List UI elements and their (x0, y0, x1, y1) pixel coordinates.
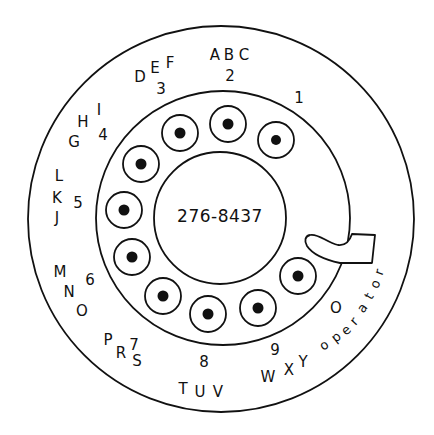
finger-hole-4[interactable] (123, 146, 159, 182)
finger-hole-0[interactable] (280, 258, 316, 294)
digit-label-2: 2 (225, 67, 235, 85)
finger-hole-9[interactable] (240, 290, 276, 326)
operator-letter: t (361, 290, 377, 302)
digit-label-8: 8 (199, 353, 209, 371)
hole-dot-icon (175, 128, 186, 139)
digit-label-0: O (330, 299, 342, 317)
letter-f: F (166, 54, 175, 72)
letter-y: Y (297, 353, 308, 371)
letter-s: S (132, 352, 142, 370)
operator-letter: r (347, 314, 362, 328)
letter-c: C (239, 46, 249, 64)
digit-label-5: 5 (73, 194, 83, 212)
letter-o: O (76, 302, 88, 320)
label-group-2: A B C 2 (210, 46, 249, 85)
operator-letter: e (338, 322, 354, 339)
finger-hole-5[interactable] (106, 192, 142, 228)
letter-u: U (195, 383, 206, 401)
letter-a: A (210, 46, 221, 64)
letter-d: D (134, 68, 146, 86)
letter-t: T (177, 380, 188, 398)
digit-label-9: 9 (270, 341, 280, 359)
letter-n: N (63, 283, 74, 301)
hole-dot-icon (136, 159, 147, 170)
letter-l: L (55, 167, 64, 185)
operator-letter: o (367, 277, 384, 291)
letter-v: V (213, 383, 224, 401)
letter-r: R (116, 344, 126, 362)
letter-g: G (68, 133, 80, 151)
hole-dot-icon (293, 271, 304, 282)
hole-dot-icon (271, 135, 281, 145)
digit-label-3: 3 (156, 80, 166, 98)
label-group-8: 8 T U V (177, 353, 223, 401)
letter-j: J (54, 209, 59, 227)
finger-hole-2[interactable] (210, 106, 246, 142)
hole-dot-icon (127, 252, 138, 263)
finger-stop-icon (305, 234, 375, 263)
label-group-5: J K L 5 (52, 167, 83, 227)
hole-dot-icon (223, 119, 234, 130)
letter-e: E (150, 59, 159, 77)
letter-w: W (261, 368, 276, 386)
digit-label-1: 1 (294, 89, 304, 107)
digit-label-4: 4 (98, 126, 108, 144)
label-group-4: G H I 4 (68, 101, 108, 151)
finger-hole-7[interactable] (145, 278, 181, 314)
hole-dot-icon (203, 309, 214, 320)
phone-number-label: 276-8437 (177, 206, 263, 226)
finger-hole-3[interactable] (162, 115, 198, 151)
finger-hole-1[interactable] (258, 122, 294, 158)
finger-hole-6[interactable] (114, 239, 150, 275)
letter-p: P (103, 331, 112, 349)
operator-letter: a (354, 300, 371, 315)
letter-i: I (97, 101, 101, 119)
digit-label-6: 6 (85, 271, 95, 289)
letter-h: H (77, 113, 88, 131)
label-group-6: M N O 6 (54, 263, 95, 320)
operator-letter: o (316, 337, 331, 354)
label-group-7: P R S 7 (103, 331, 141, 370)
rotary-dial: 276-8437 1 A B C 2 D E F 3 G H I 4 J K L… (0, 0, 434, 435)
hole-dot-icon (158, 291, 169, 302)
finger-hole-8[interactable] (190, 296, 226, 332)
digit-label-7: 7 (129, 336, 139, 354)
label-group-9: 9 W X Y (261, 341, 309, 386)
operator-letter: r (371, 266, 387, 277)
letter-m: M (54, 263, 67, 281)
hole-dot-icon (119, 205, 130, 216)
letter-k: K (52, 189, 63, 207)
letter-b: B (224, 46, 234, 64)
hole-dot-icon (253, 303, 264, 314)
letter-x: X (284, 361, 294, 379)
label-group-0: O o p e r a t o r (316, 266, 387, 353)
label-group-3: D E F 3 (134, 54, 174, 98)
